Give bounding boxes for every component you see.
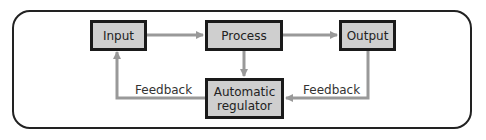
output-node-label: Output (347, 29, 389, 43)
process-node-label: Process (221, 29, 267, 43)
input-node-label: Input (103, 29, 134, 43)
regulator-label-line1: Automatic (214, 85, 276, 99)
output-node: Output (339, 20, 396, 51)
feedback-right-label: Feedback (303, 83, 360, 97)
regulator-label-line2: regulator (217, 99, 272, 113)
process-node: Process (205, 20, 283, 51)
feedback-left-label: Feedback (135, 83, 192, 97)
input-node: Input (90, 20, 147, 51)
automatic-regulator-node: Automatic regulator (205, 78, 284, 119)
